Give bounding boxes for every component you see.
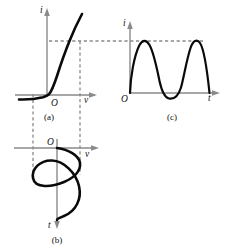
panel-a-i-axis-arrow [44, 8, 50, 16]
construction-lines [33, 41, 204, 178]
panel-b-t-axis-arrow [54, 221, 60, 229]
panel-c-t-axis-arrow [212, 90, 220, 96]
panel-c: i t O (c) [121, 18, 220, 122]
panel-a-caption: (a) [44, 112, 54, 122]
panel-b-v-label: v [85, 149, 90, 159]
panel-c-i-axis-arrow [127, 21, 133, 29]
panel-a-i-label: i [40, 5, 43, 15]
figure-canvas: i v O (a) O v t (b) [0, 0, 232, 248]
panel-c-origin-label: O [121, 94, 128, 104]
panel-c-t-label: t [208, 93, 211, 103]
panel-a: i v O (a) [15, 5, 97, 122]
panel-b-t-label: t [48, 220, 51, 230]
panel-c-current-waveform [130, 41, 210, 99]
panel-b: O v t (b) [14, 137, 99, 245]
panel-a-origin-label: O [51, 98, 58, 108]
panel-a-characteristic-curve [19, 14, 82, 100]
panel-a-v-axis-arrow [89, 92, 97, 98]
physics-figure: i v O (a) O v t (b) [0, 0, 232, 248]
panel-b-v-axis-arrow [91, 145, 99, 151]
panel-b-caption: (b) [52, 235, 63, 245]
panel-c-caption: (c) [167, 112, 177, 122]
panel-c-i-label: i [123, 18, 126, 28]
panel-a-v-label: v [84, 95, 89, 105]
panel-b-origin-label: O [47, 137, 54, 147]
